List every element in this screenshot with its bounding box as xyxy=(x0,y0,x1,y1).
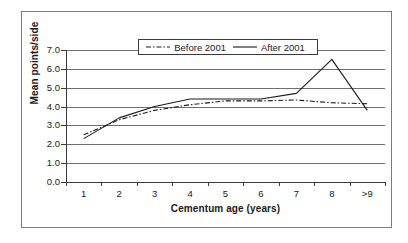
legend-swatch-solid-icon xyxy=(232,43,258,51)
x-tick-mark xyxy=(350,182,351,186)
x-tick-mark xyxy=(172,182,173,186)
y-tick-mark xyxy=(61,107,66,108)
x-tick-mark xyxy=(101,182,102,186)
y-tick-mark xyxy=(61,50,66,51)
x-tick-label: 8 xyxy=(312,188,352,199)
x-tick-label: 6 xyxy=(241,188,281,199)
legend-entry-after-2001: After 2001 xyxy=(232,42,311,53)
x-tick-mark xyxy=(137,182,138,186)
y-tick-label: 2.0 xyxy=(20,138,60,149)
x-tick-mark xyxy=(314,182,315,186)
y-tick-label: 4.0 xyxy=(20,101,60,112)
y-tick-mark xyxy=(61,125,66,126)
plot-area xyxy=(66,50,385,182)
legend-label-after-2001: After 2001 xyxy=(258,42,311,53)
legend-swatch-dash-dot-icon xyxy=(145,43,171,51)
data-series-group xyxy=(66,50,385,182)
y-tick-mark xyxy=(61,88,66,89)
y-tick-label: 6.0 xyxy=(20,63,60,74)
x-tick-label: 5 xyxy=(206,188,246,199)
x-tick-mark xyxy=(208,182,209,186)
y-tick-label: 7.0 xyxy=(20,44,60,55)
y-tick-label: 3.0 xyxy=(20,119,60,130)
x-axis-title: Cementum age (years) xyxy=(66,203,385,214)
x-tick-label: >9 xyxy=(347,188,387,199)
y-tick-mark xyxy=(61,163,66,164)
y-tick-mark xyxy=(61,144,66,145)
figure-container: Mean points/side 0.01.02.03.04.05.06.07.… xyxy=(0,0,408,243)
x-tick-mark xyxy=(243,182,244,186)
x-tick-mark xyxy=(385,182,386,186)
y-axis-line xyxy=(66,50,67,183)
x-tick-label: 2 xyxy=(99,188,139,199)
y-axis-tick-labels: 0.01.02.03.04.05.06.07.0 xyxy=(16,0,60,243)
legend-label-before-2001: Before 2001 xyxy=(171,42,232,53)
x-tick-mark xyxy=(66,182,67,186)
x-tick-label: 4 xyxy=(170,188,210,199)
x-tick-label: 3 xyxy=(135,188,175,199)
x-tick-label: 7 xyxy=(276,188,316,199)
x-tick-label: 1 xyxy=(64,188,104,199)
chart-legend: Before 2001 After 2001 xyxy=(138,39,318,55)
x-axis-line xyxy=(66,182,386,183)
chart-plot-wrapper: Mean points/side 0.01.02.03.04.05.06.07.… xyxy=(0,0,408,243)
series-line-after-2001 xyxy=(84,59,368,138)
y-tick-label: 0.0 xyxy=(20,176,60,187)
y-tick-mark xyxy=(61,69,66,70)
x-tick-mark xyxy=(279,182,280,186)
series-line-before-2001 xyxy=(84,100,368,135)
y-tick-label: 1.0 xyxy=(20,157,60,168)
y-tick-label: 5.0 xyxy=(20,82,60,93)
legend-entry-before-2001: Before 2001 xyxy=(145,42,232,53)
